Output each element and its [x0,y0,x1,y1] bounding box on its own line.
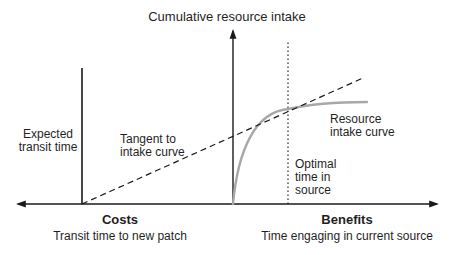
benefits-subheading: Time engaging in current source [247,230,447,243]
benefits-heading: Benefits [287,213,407,226]
expected-transit-time-label: Expected transit time [18,128,78,154]
tangent-label: Tangent to intake curve [120,133,185,159]
y-axis-title: Cumulative resource intake [0,9,454,24]
costs-subheading: Transit time to new patch [40,230,200,243]
optimal-time-label: Optimal time in source [295,158,336,197]
costs-heading: Costs [60,213,180,226]
resource-intake-curve-label: Resource intake curve [330,113,395,139]
